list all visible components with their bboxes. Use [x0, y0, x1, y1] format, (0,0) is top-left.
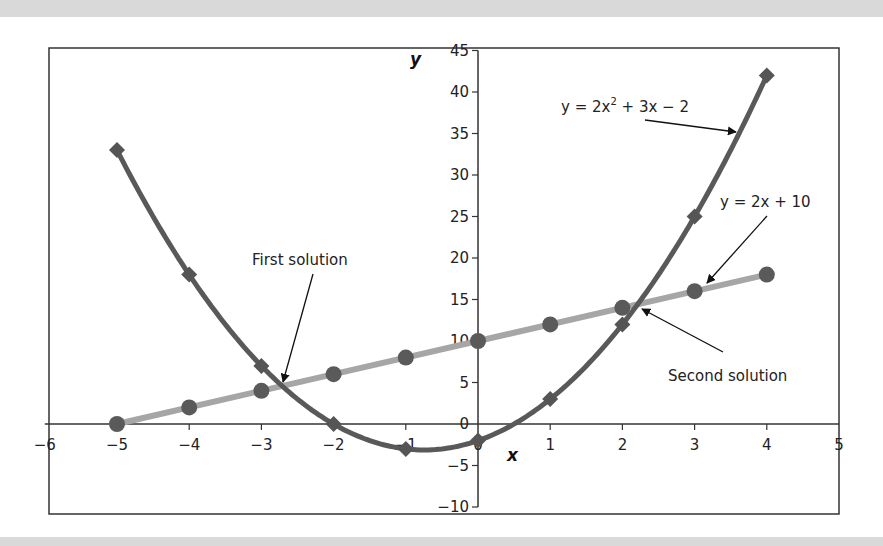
x-tick-label: 1: [545, 436, 555, 454]
arrows: [283, 120, 767, 382]
line-point-marker: [398, 350, 414, 366]
y-tick-label: 25: [450, 208, 469, 226]
y-tick-label: 40: [450, 83, 469, 101]
eq-part: y = 2x: [561, 98, 611, 116]
arrow-parabola: [645, 120, 736, 132]
x-tick-label: 3: [690, 436, 700, 454]
y-tick-label: −10: [437, 498, 469, 516]
eq-part: + 3x − 2: [617, 98, 689, 116]
line-point-marker: [253, 383, 269, 399]
x-tick-label: 4: [762, 436, 772, 454]
line-point-marker: [759, 267, 775, 283]
x-tick-label: −4: [178, 436, 200, 454]
x-tick-label: −6: [34, 436, 56, 454]
line-point-marker: [542, 316, 558, 332]
parabola-series: [117, 75, 767, 450]
x-tick-label: −3: [250, 436, 272, 454]
series: [109, 67, 775, 457]
line-point-marker: [326, 366, 342, 382]
first-solution-label: First solution: [252, 251, 348, 269]
line-point-marker: [109, 416, 125, 432]
x-tick-label: −2: [323, 436, 345, 454]
y-tick-label: 5: [459, 374, 469, 392]
y-tick-label: 35: [450, 125, 469, 143]
y-tick-label: 45: [450, 42, 469, 60]
y-tick-label: −5: [447, 457, 469, 475]
arrow-second-solution: [642, 309, 723, 352]
line-point-marker: [181, 399, 197, 415]
annotations: y x First solution Second solution y = 2…: [252, 49, 811, 465]
arrow-line: [707, 216, 767, 283]
y-tick-label: 20: [450, 249, 469, 267]
arrow-first-solution: [283, 274, 313, 382]
x-axis-title: x: [506, 445, 519, 465]
line-series: [117, 275, 767, 424]
chart: −6−5−4−3−2−1012345−10−505101520253035404…: [0, 0, 883, 546]
second-solution-label: Second solution: [668, 367, 787, 385]
y-axis-title: y: [410, 49, 422, 69]
x-tick-label: 5: [834, 436, 844, 454]
line-point-marker: [614, 300, 630, 316]
plot-frame: [49, 48, 839, 514]
axes: −6−5−4−3−2−1012345−10−505101520253035404…: [34, 42, 844, 517]
line-equation-label: y = 2x + 10: [720, 193, 811, 211]
x-tick-label: −5: [106, 436, 128, 454]
x-tick-label: 2: [618, 436, 628, 454]
parabola-equation-label: y = 2x2 + 3x − 2: [561, 96, 689, 116]
y-tick-label: 15: [450, 291, 469, 309]
y-tick-label: 0: [459, 415, 469, 433]
parabola-point-marker: [759, 67, 775, 83]
y-tick-label: 30: [450, 166, 469, 184]
line-point-marker: [470, 333, 486, 349]
line-point-marker: [687, 283, 703, 299]
